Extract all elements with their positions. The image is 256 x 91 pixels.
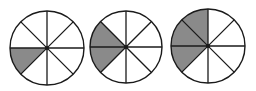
circle-3: [171, 9, 245, 83]
circle-2: [90, 11, 162, 83]
center-dot: [206, 44, 210, 48]
center-dot: [124, 45, 128, 49]
fraction-circles-figure: [0, 0, 256, 91]
shaded-sector: [10, 48, 47, 74]
circle-1: [10, 11, 84, 85]
shaded-sector: [171, 46, 208, 72]
shaded-sector: [90, 47, 126, 72]
shaded-sector: [90, 22, 126, 47]
center-dot: [45, 46, 49, 50]
